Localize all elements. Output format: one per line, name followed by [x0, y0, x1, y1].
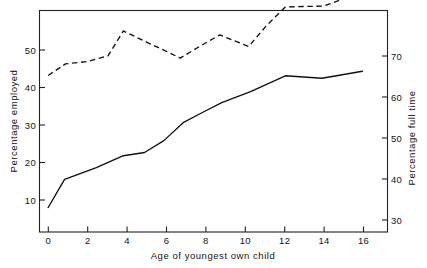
- left-tick-label: 40: [25, 82, 36, 93]
- series-percentage-employed: [48, 71, 362, 207]
- x-tick-label: 8: [203, 235, 209, 246]
- x-axis-tick-labels: 0 2 4 6 8 10 12 14 16: [46, 235, 370, 246]
- series-percentage-full-time: [48, 0, 362, 75]
- x-tick-label: 0: [46, 235, 52, 246]
- right-tick-label: 50: [391, 133, 402, 144]
- x-axis-title: Age of youngest own child: [151, 250, 276, 261]
- x-tick-label: 12: [279, 235, 290, 246]
- x-tick-label: 14: [319, 235, 330, 246]
- right-tick-label: 70: [391, 51, 402, 62]
- left-tick-label: 30: [25, 120, 36, 131]
- left-tick-label: 10: [25, 195, 36, 206]
- right-tick-label: 40: [391, 174, 402, 185]
- y2-axis-title: Percentage full time: [406, 91, 417, 186]
- left-axis-ticks: [40, 50, 46, 200]
- x-tick-label: 6: [164, 235, 170, 246]
- x-tick-label: 2: [85, 235, 91, 246]
- x-tick-label: 4: [124, 235, 130, 246]
- x-axis-ticks: [48, 227, 363, 233]
- right-tick-label: 60: [391, 92, 402, 103]
- left-axis-tick-labels: 50 40 30 20 10: [25, 45, 36, 206]
- x-tick-label: 10: [240, 235, 251, 246]
- left-tick-label: 50: [25, 45, 36, 56]
- y-axis-title: Percentage employed: [8, 70, 19, 173]
- right-axis-ticks: [382, 56, 388, 220]
- x-tick-label: 16: [358, 235, 369, 246]
- plot-frame: [40, 11, 388, 233]
- line-chart: 50 40 30 20 10 70 60 50 40 30: [0, 0, 427, 268]
- right-axis-tick-labels: 70 60 50 40 30: [391, 51, 402, 226]
- left-tick-label: 20: [25, 157, 36, 168]
- right-tick-label: 30: [391, 215, 402, 226]
- chart-figure: 50 40 30 20 10 70 60 50 40 30: [0, 0, 427, 268]
